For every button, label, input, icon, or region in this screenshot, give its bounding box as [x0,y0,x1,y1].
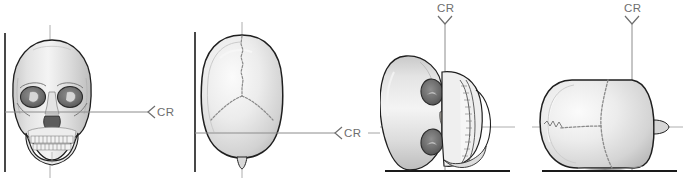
skull-positioning-figure: CR [0,0,683,182]
cr-label-3: CR [437,2,454,14]
cr-label-2: CR [344,127,361,139]
central-ray-arrowhead-icon [625,16,639,24]
skull-vertex-illustration [201,35,283,169]
orbit-left-inner-detail [29,91,39,102]
occipital-protuberance [237,157,247,169]
panel-vertex-skull-superior: CR [180,0,380,182]
panel-vertex-skull-rotated: CR [532,0,683,182]
skull-vertex-rotated-illustration [540,80,669,169]
central-ray-arrowhead-icon [438,16,452,24]
orbit-right-inner-detail [66,91,76,102]
skull-frontal-rotated-illustration [380,56,490,170]
lower-teeth [33,144,71,150]
calvarium-vertex-outline-rotated [540,80,654,168]
upper-teeth [31,136,73,143]
panel-frontal-skull-rotated: CR [380,0,532,182]
occipital-protuberance-rotated [654,120,669,134]
panel-ap-skull-frontal: CR [0,0,180,182]
skull-frontal-illustration [13,40,91,165]
central-ray-arrowhead-icon [335,127,342,139]
central-ray-arrowhead-icon [148,106,155,118]
cr-label-4: CR [624,2,641,14]
cr-label-1: CR [157,106,174,118]
